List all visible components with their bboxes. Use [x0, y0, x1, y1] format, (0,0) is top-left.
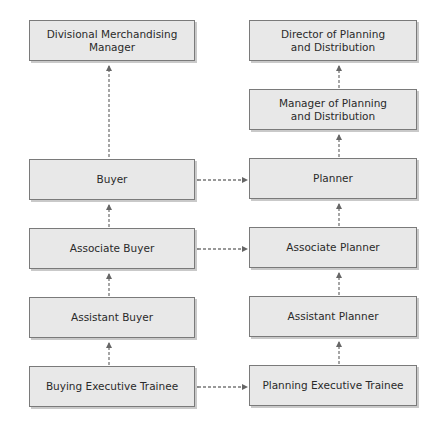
node-label: Buying Executive Trainee: [46, 380, 178, 393]
node-manager-planning-distribution: Manager of Planning and Distribution: [249, 89, 417, 130]
node-label: Associate Buyer: [70, 242, 154, 255]
node-planner: Planner: [249, 158, 417, 199]
node-label: Divisional Merchandising Manager: [47, 28, 178, 54]
node-label: Planning Executive Trainee: [262, 379, 403, 392]
node-associate-buyer: Associate Buyer: [29, 228, 195, 269]
node-label: Assistant Planner: [288, 310, 379, 323]
node-director-planning-distribution: Director of Planning and Distribution: [249, 20, 417, 61]
node-label: Buyer: [97, 173, 128, 186]
node-label: Planner: [313, 172, 353, 185]
node-associate-planner: Associate Planner: [249, 227, 417, 268]
node-label: Associate Planner: [286, 241, 379, 254]
node-label: Assistant Buyer: [71, 311, 153, 324]
node-assistant-planner: Assistant Planner: [249, 296, 417, 337]
node-buying-executive-trainee: Buying Executive Trainee: [29, 366, 195, 407]
node-label: Director of Planning and Distribution: [281, 28, 385, 54]
node-divisional-merchandising-manager: Divisional Merchandising Manager: [29, 20, 195, 61]
node-label: Manager of Planning and Distribution: [279, 97, 387, 123]
node-planning-executive-trainee: Planning Executive Trainee: [249, 365, 417, 406]
node-buyer: Buyer: [29, 159, 195, 200]
connectors-layer: [0, 0, 432, 425]
node-assistant-buyer: Assistant Buyer: [29, 297, 195, 338]
